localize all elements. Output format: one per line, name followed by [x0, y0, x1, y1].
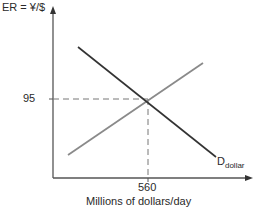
x-axis-label: Millions of dollars/day	[86, 195, 191, 207]
demand-label-main: D	[217, 155, 225, 167]
x-axis-arrow-icon	[245, 175, 253, 181]
y-axis-arrow-icon	[50, 6, 56, 14]
chart-canvas	[0, 0, 260, 215]
x-tick-label: 560	[138, 181, 156, 193]
demand-label-sub: dollar	[225, 161, 245, 170]
y-axis-label: ER = ¥/$	[2, 1, 45, 13]
y-tick-label: 95	[23, 92, 35, 104]
supply-line	[68, 63, 203, 155]
demand-curve-label: Ddollar	[217, 155, 245, 170]
demand-line	[78, 47, 216, 157]
